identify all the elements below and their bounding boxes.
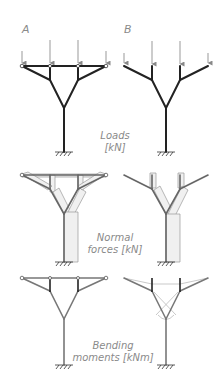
structural-diagram (0, 0, 220, 387)
bending-moments-b (124, 278, 208, 369)
normal-forces-a (20, 172, 108, 266)
loads-structure-b (124, 41, 208, 156)
normal-forces-b (124, 173, 208, 266)
bending-moments-a (20, 276, 108, 369)
loads-structure-a (20, 40, 108, 156)
load-arrows-a (22, 40, 106, 63)
